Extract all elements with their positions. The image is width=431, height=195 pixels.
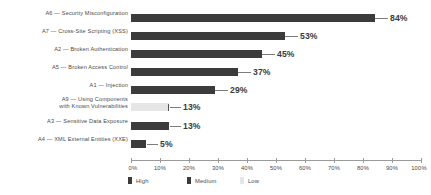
- bar-chart: A6 — Security Misconfiguration 84% A7 — …: [0, 0, 431, 195]
- bar-low[interactable]: [131, 103, 169, 111]
- axis-tick: [392, 158, 393, 163]
- axis-tick: [334, 158, 335, 163]
- legend-label: High: [136, 178, 149, 184]
- legend-swatch-icon: [187, 177, 191, 184]
- chart-row: A3 — Sensitive Data Exposure 13%: [0, 118, 431, 134]
- legend-label: Medium: [195, 178, 217, 184]
- leader-line: [285, 36, 298, 37]
- axis-tick-label: 100%: [411, 165, 427, 171]
- bar-high[interactable]: [131, 68, 238, 76]
- chart-row: A2 — Broken Authentication 45%: [0, 46, 431, 62]
- category-label: A5 — Broken Access Control: [0, 64, 128, 71]
- chart-row: A9 — Using Components with Known Vulnera…: [0, 97, 431, 117]
- axis-tick: [363, 158, 364, 163]
- category-label: A2 — Broken Authentication: [0, 46, 128, 53]
- axis-tick-label: 60%: [299, 165, 311, 171]
- category-label: A7 — Cross-Site Scripting (XSS): [0, 28, 128, 35]
- category-label: A3 — Sensitive Data Exposure: [0, 118, 128, 125]
- bar-end-cap: [168, 104, 169, 111]
- axis-tick: [131, 158, 132, 163]
- leader-line: [238, 72, 251, 73]
- leader-line: [215, 90, 228, 91]
- axis-tick: [247, 158, 248, 163]
- chart-row: A7 — Cross-Site Scripting (XSS) 53%: [0, 28, 431, 44]
- axis-tick-label: 50%: [270, 165, 282, 171]
- axis-tick-label: 90%: [386, 165, 398, 171]
- bar-high[interactable]: [131, 122, 169, 130]
- axis-tick: [189, 158, 190, 163]
- category-label: A1 — Injection: [0, 82, 128, 89]
- legend: High Medium Low: [0, 177, 431, 189]
- chart-row: A5 — Broken Access Control 37%: [0, 64, 431, 80]
- leader-line: [262, 54, 275, 55]
- legend-swatch-icon: [240, 177, 244, 184]
- category-label: A6 — Security Misconfiguration: [0, 10, 128, 17]
- bar-high[interactable]: [131, 140, 146, 148]
- legend-item-low[interactable]: Low: [240, 177, 259, 184]
- bar-high[interactable]: [131, 32, 285, 40]
- value-label: 13%: [183, 121, 201, 131]
- axis-tick: [218, 158, 219, 163]
- leader-line: [375, 18, 388, 19]
- axis-tick-label: 70%: [328, 165, 340, 171]
- legend-label: Low: [248, 178, 259, 184]
- legend-swatch-icon: [128, 177, 132, 184]
- axis-tick: [305, 158, 306, 163]
- axis-tick: [276, 158, 277, 163]
- axis-tick-label: 0%: [129, 165, 138, 171]
- x-axis: [131, 160, 421, 161]
- bar-high[interactable]: [131, 86, 215, 94]
- value-label: 13%: [183, 102, 201, 112]
- axis-tick: [160, 158, 161, 163]
- leader-line: [170, 126, 181, 127]
- leader-line: [170, 107, 181, 108]
- value-label: 84%: [390, 13, 408, 23]
- axis-tick-label: 10%: [154, 165, 166, 171]
- axis-tick-label: 80%: [357, 165, 369, 171]
- bar-end-cap: [145, 141, 146, 148]
- bar-high[interactable]: [131, 50, 262, 58]
- value-label: 29%: [230, 85, 248, 95]
- value-label: 53%: [300, 31, 318, 41]
- axis-tick-label: 20%: [183, 165, 195, 171]
- leader-line: [147, 144, 158, 145]
- bar-high[interactable]: [131, 14, 375, 22]
- axis-tick-label: 40%: [241, 165, 253, 171]
- value-label: 37%: [253, 67, 271, 77]
- chart-row: A6 — Security Misconfiguration 84%: [0, 10, 431, 26]
- legend-item-high[interactable]: High: [128, 177, 149, 184]
- value-label: 5%: [160, 139, 173, 149]
- value-label: 45%: [277, 49, 295, 59]
- axis-tick: [421, 158, 422, 163]
- axis-tick-label: 30%: [212, 165, 224, 171]
- bar-end-cap: [168, 123, 169, 130]
- category-label: A9 — Using Components with Known Vulnera…: [0, 96, 128, 111]
- chart-row: A4 — XML External Entities (XXE) 5%: [0, 136, 431, 152]
- category-label: A4 — XML External Entities (XXE): [0, 136, 128, 143]
- legend-item-medium[interactable]: Medium: [187, 177, 217, 184]
